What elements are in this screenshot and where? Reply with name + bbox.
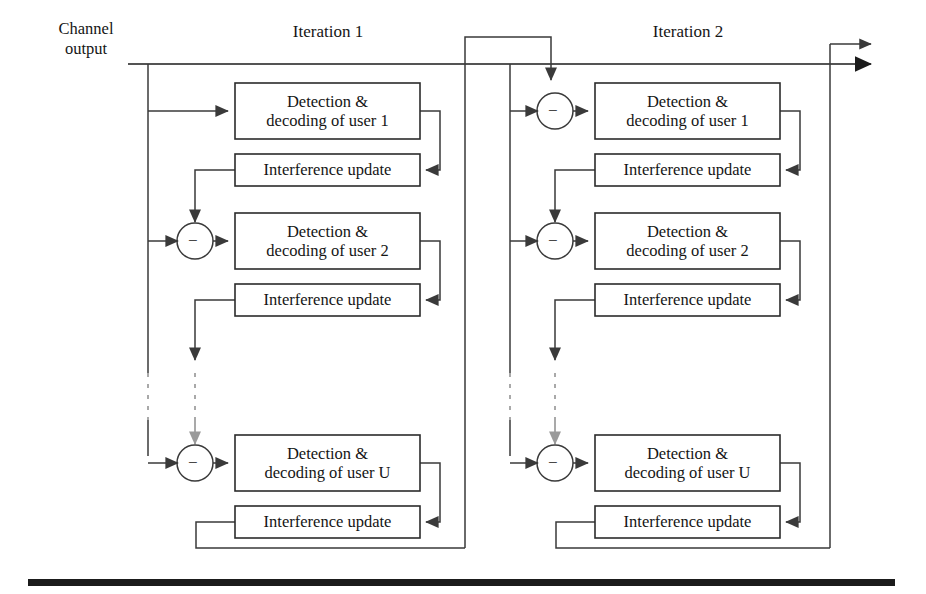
- adder-sign-it1-user2: −: [188, 231, 198, 251]
- wire-it1-iu1-to-adder2: [195, 170, 235, 222]
- wire-it1-u2-det-to-iu: [420, 241, 440, 300]
- wire-it2-uU-det-to-iu: [780, 463, 800, 522]
- box-it2-detection-user1: [595, 83, 780, 139]
- wire-it2-u2-det-to-iu: [780, 241, 800, 300]
- wire-it1-to-it2-adder1: [465, 37, 551, 548]
- box-it1-interference-userU: [235, 506, 420, 538]
- wire-group-main: [128, 37, 871, 548]
- adder-sign-it2-user1: −: [548, 101, 558, 121]
- adder-sign-it1-userU: −: [188, 453, 198, 473]
- channel-output-line2: output: [38, 39, 134, 59]
- box-it2-interference-user2: [595, 284, 780, 316]
- adder-sign-it2-user2: −: [548, 231, 558, 251]
- box-it1-detection-userU: [235, 435, 420, 491]
- diagram-vector-layer: [0, 0, 926, 594]
- box-it1-interference-user1: [235, 154, 420, 186]
- box-it2-interference-user1: [595, 154, 780, 186]
- wire-it2-u1-det-to-iu: [780, 111, 800, 170]
- wire-it1-iuU-to-next: [196, 522, 465, 548]
- box-it1-interference-user2: [235, 284, 420, 316]
- wire-it2-iu2-down: [555, 300, 595, 360]
- bottom-rule: [28, 579, 895, 586]
- box-it1-detection-user1: [235, 83, 420, 139]
- channel-output-label: Channel output: [38, 19, 134, 59]
- box-it2-detection-user2: [595, 213, 780, 269]
- box-it1-detection-user2: [235, 213, 420, 269]
- figure-canvas: Channel output Iteration 1 Iteration 2 D…: [0, 0, 926, 594]
- wire-it1-uU-det-to-iu: [420, 463, 440, 522]
- wire-it1-iu2-down: [195, 300, 235, 360]
- channel-output-line1: Channel: [38, 19, 134, 39]
- iteration-1-title: Iteration 1: [268, 22, 388, 42]
- box-it2-interference-userU: [595, 506, 780, 538]
- wire-it1-u1-det-to-iu: [420, 111, 440, 170]
- iteration-2-title: Iteration 2: [628, 22, 748, 42]
- box-it2-detection-userU: [595, 435, 780, 491]
- wire-it2-iu1-to-adder2: [555, 170, 595, 222]
- wire-it2-iuU-to-out: [556, 522, 830, 548]
- adder-sign-it2-userU: −: [548, 453, 558, 473]
